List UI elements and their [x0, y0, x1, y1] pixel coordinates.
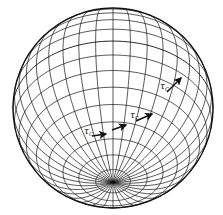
loxodrome-sphere-diagram: τCτCτC — [0, 0, 223, 215]
grid-line — [49, 21, 113, 182]
grid-line — [113, 44, 200, 183]
grid-line — [26, 44, 113, 183]
grid-line — [113, 9, 130, 183]
grid-line — [96, 9, 113, 183]
tangent-arrow-3-icon — [167, 78, 181, 92]
direction-arrow-icon — [112, 125, 126, 130]
grid-line — [113, 21, 177, 182]
grid-line — [113, 15, 163, 183]
sphere-meridians-grid — [13, 8, 213, 208]
grid-line — [63, 15, 113, 183]
tau-c-2-label: τC — [130, 110, 139, 121]
